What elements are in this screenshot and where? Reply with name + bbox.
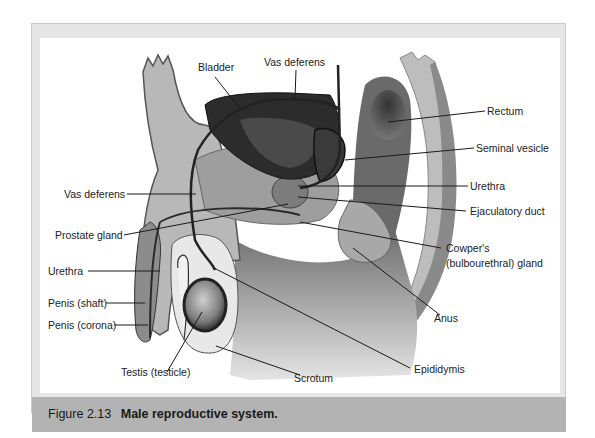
label-cowpers-line2: (bulbourethral) gland: [446, 257, 543, 269]
figure-caption: Figure 2.13 Male reproductive system.: [48, 407, 278, 421]
label-scrotum: Scrotum: [294, 372, 333, 384]
figure-title: Male reproductive system.: [121, 407, 278, 421]
label-urethra-right: Urethra: [470, 180, 505, 192]
label-vas-deferens-top: Vas deferens: [264, 56, 325, 68]
testis-shape: [184, 279, 226, 331]
label-cowpers-line1: Cowper's: [446, 242, 489, 254]
rectum-lumen: [370, 90, 406, 140]
label-bladder: Bladder: [198, 61, 234, 73]
label-prostate-gland: Prostate gland: [55, 229, 123, 241]
prostate-shape: [272, 176, 308, 208]
label-penis-shaft: Penis (shaft): [48, 297, 107, 309]
label-testis: Testis (testicle): [121, 366, 190, 378]
label-ejaculatory-duct: Ejaculatory duct: [470, 205, 545, 217]
label-anus: Anus: [434, 312, 458, 324]
label-vas-deferens-left: Vas deferens: [64, 188, 125, 200]
label-epididymis: Epididymis: [414, 363, 465, 375]
label-penis-corona: Penis (corona): [48, 319, 116, 331]
label-rectum: Rectum: [487, 105, 523, 117]
label-urethra-left: Urethra: [48, 265, 83, 277]
label-seminal-vesicle: Seminal vesicle: [476, 142, 549, 154]
figure-number: Figure 2.13: [48, 407, 111, 421]
